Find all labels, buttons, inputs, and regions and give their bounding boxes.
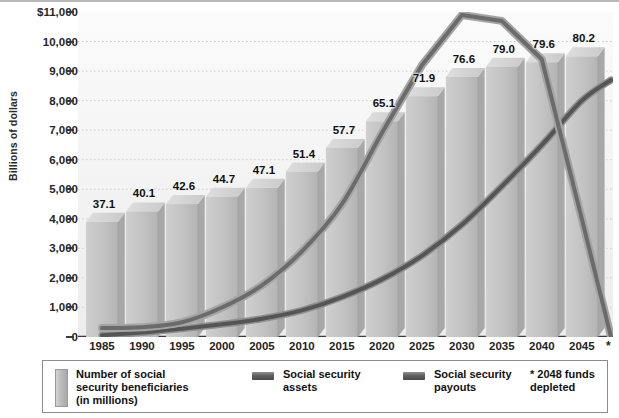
bar-side-face bbox=[238, 188, 245, 337]
x-tick-label: 2000 bbox=[209, 340, 235, 352]
bar-top-face bbox=[206, 188, 245, 197]
bar-value-label: 51.4 bbox=[293, 148, 315, 160]
bar-value-label: 37.1 bbox=[93, 198, 115, 210]
bar-top-face bbox=[246, 179, 285, 188]
y-tick-mark bbox=[66, 159, 74, 161]
x-tick-label: 1990 bbox=[129, 340, 155, 352]
bar-side-face bbox=[438, 87, 445, 337]
y-tick-mark bbox=[66, 247, 74, 249]
bar-value-label: 79.6 bbox=[533, 38, 555, 50]
bar-column bbox=[446, 68, 485, 337]
legend-item-payouts: Social security payouts bbox=[403, 368, 512, 394]
x-tick-label: 1985 bbox=[89, 340, 115, 352]
y-tick-mark bbox=[66, 218, 74, 220]
y-axis-title: Billions of dollars bbox=[7, 61, 19, 211]
x-tick-label: 1995 bbox=[169, 340, 195, 352]
x-axis-asterisk: * bbox=[606, 339, 611, 353]
x-tick-label: 2045 bbox=[569, 340, 595, 352]
bar-side-face bbox=[158, 202, 165, 337]
bar-value-label: 76.6 bbox=[453, 53, 475, 65]
bar-side-face bbox=[518, 58, 525, 337]
legend: Number of social security beneficiaries … bbox=[42, 360, 608, 413]
bar-value-label: 79.0 bbox=[493, 43, 515, 55]
bar-top-face bbox=[166, 195, 205, 204]
payouts-line-swatch-icon bbox=[403, 372, 425, 380]
y-tick-mark bbox=[66, 277, 74, 279]
bar-value-label: 65.1 bbox=[373, 97, 395, 109]
legend-label-assets: Social security assets bbox=[283, 368, 361, 394]
x-tick-label: 2030 bbox=[449, 340, 475, 352]
y-tick-mark bbox=[66, 336, 74, 338]
bar-value-label: 57.7 bbox=[333, 124, 355, 136]
bar-side-face bbox=[318, 163, 325, 337]
bar-top-face bbox=[446, 68, 485, 77]
bar-column bbox=[126, 202, 165, 337]
y-tick-mark bbox=[66, 100, 74, 102]
legend-note: * 2048 funds depleted bbox=[530, 368, 595, 394]
bar-value-label: 44.7 bbox=[213, 173, 235, 185]
bar-side-face bbox=[118, 213, 125, 337]
bar-front-face bbox=[86, 222, 118, 337]
bar-value-label: 71.9 bbox=[413, 72, 435, 84]
bar-column bbox=[86, 213, 125, 337]
y-tick-mark bbox=[66, 306, 74, 308]
bar-value-label: 40.1 bbox=[133, 187, 155, 199]
bar-front-face bbox=[326, 148, 358, 337]
chart-root: Billions of dollars $11,00010,0009,0008,… bbox=[0, 0, 619, 418]
bar-top-face bbox=[326, 139, 365, 148]
bar-value-label: 42.6 bbox=[173, 180, 195, 192]
x-tick-label: 2010 bbox=[289, 340, 315, 352]
bar-top-face bbox=[286, 163, 325, 172]
bar-side-face bbox=[398, 112, 405, 337]
bar-top-face bbox=[126, 202, 165, 211]
bar-value-label: 47.1 bbox=[253, 164, 275, 176]
x-tick-label: 2005 bbox=[249, 340, 275, 352]
legend-item-assets: Social security assets bbox=[252, 368, 361, 394]
x-tick-label: 2040 bbox=[529, 340, 555, 352]
bar-top-face bbox=[86, 213, 125, 222]
bar-column bbox=[406, 87, 445, 337]
bar-front-face bbox=[446, 77, 478, 337]
bar-side-face bbox=[558, 53, 565, 337]
x-tick-label: 2035 bbox=[489, 340, 515, 352]
legend-label-beneficiaries: Number of social security beneficiaries … bbox=[76, 368, 189, 407]
y-tick-mark bbox=[66, 70, 74, 72]
x-tick-label: 2015 bbox=[329, 340, 355, 352]
bar-top-face bbox=[486, 58, 525, 67]
bar-swatch-icon bbox=[55, 369, 68, 407]
bar-value-label: 80.2 bbox=[573, 32, 595, 44]
x-tick-label: 2025 bbox=[409, 340, 435, 352]
y-tick-mark bbox=[66, 129, 74, 131]
assets-line-swatch-icon bbox=[252, 372, 274, 380]
y-tick-mark bbox=[66, 11, 74, 13]
plot-area bbox=[78, 12, 613, 337]
y-tick-mark bbox=[66, 41, 74, 43]
legend-note-text: * 2048 funds depleted bbox=[530, 368, 595, 394]
bar-front-face bbox=[126, 211, 158, 337]
legend-label-payouts: Social security payouts bbox=[434, 368, 512, 394]
top-divider bbox=[0, 0, 619, 2]
x-tick-label: 2020 bbox=[369, 340, 395, 352]
y-tick-mark bbox=[66, 188, 74, 190]
plot-svg bbox=[78, 12, 613, 337]
bar-column bbox=[526, 53, 565, 337]
legend-item-beneficiaries: Number of social security beneficiaries … bbox=[55, 368, 189, 407]
bar-front-face bbox=[406, 96, 438, 337]
bar-top-face bbox=[566, 47, 605, 56]
